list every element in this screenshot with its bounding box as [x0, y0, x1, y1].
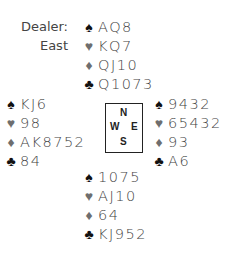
heart-icon: ♥ [82, 38, 96, 54]
south-hearts: AJ10 [98, 188, 137, 204]
north-hearts: KQ7 [98, 38, 133, 54]
north-spades: AQ8 [98, 19, 133, 35]
diamond-icon: ♦ [82, 57, 96, 73]
south-spades: 1075 [98, 169, 141, 185]
diamond-icon: ♦ [152, 134, 166, 150]
west-diamonds: AK8752 [20, 134, 85, 150]
spade-icon: ♠ [4, 96, 18, 112]
west-hearts: 98 [20, 115, 41, 131]
north-diamonds-row: ♦ QJ10 [82, 55, 154, 74]
south-spades-row: ♠ 1075 [82, 167, 147, 186]
north-clubs: Q1073 [98, 76, 154, 92]
east-hearts: 65432 [168, 115, 222, 131]
west-hearts-row: ♥ 98 [4, 113, 85, 132]
spade-icon: ♠ [82, 169, 96, 185]
heart-icon: ♥ [152, 115, 166, 131]
east-clubs: A6 [168, 153, 190, 169]
compass-south: S [120, 136, 127, 147]
south-clubs: KJ952 [98, 226, 147, 242]
south-hand: ♠ 1075 ♥ AJ10 ♦ 64 ♣ KJ952 [82, 167, 147, 243]
club-icon: ♣ [82, 226, 96, 242]
west-spades: KJ6 [20, 96, 48, 112]
diamond-icon: ♦ [82, 207, 96, 223]
south-hearts-row: ♥ AJ10 [82, 186, 147, 205]
north-spades-row: ♠ AQ8 [82, 17, 154, 36]
compass-west: W [110, 121, 119, 132]
north-hearts-row: ♥ KQ7 [82, 36, 154, 55]
heart-icon: ♥ [4, 115, 18, 131]
south-diamonds-row: ♦ 64 [82, 205, 147, 224]
west-spades-row: ♠ KJ6 [4, 94, 85, 113]
south-diamonds: 64 [98, 207, 119, 223]
spade-icon: ♠ [82, 19, 96, 35]
west-hand: ♠ KJ6 ♥ 98 ♦ AK8752 ♣ 84 [4, 94, 85, 170]
club-icon: ♣ [152, 153, 166, 169]
north-diamonds: QJ10 [98, 57, 138, 73]
dealer-value: East [4, 36, 68, 55]
spade-icon: ♠ [152, 96, 166, 112]
east-hand: ♠ 9432 ♥ 65432 ♦ 93 ♣ A6 [152, 94, 222, 170]
east-clubs-row: ♣ A6 [152, 151, 222, 170]
compass-east: E [131, 121, 138, 132]
west-diamonds-row: ♦ AK8752 [4, 132, 85, 151]
east-diamonds-row: ♦ 93 [152, 132, 222, 151]
east-spades-row: ♠ 9432 [152, 94, 222, 113]
compass-box: N W E S [105, 103, 143, 153]
club-icon: ♣ [4, 153, 18, 169]
west-clubs-row: ♣ 84 [4, 151, 85, 170]
heart-icon: ♥ [82, 188, 96, 204]
north-hand: ♠ AQ8 ♥ KQ7 ♦ QJ10 ♣ Q1073 [82, 17, 154, 93]
club-icon: ♣ [82, 76, 96, 92]
diamond-icon: ♦ [4, 134, 18, 150]
dealer-label: Dealer: [4, 17, 68, 36]
east-spades: 9432 [168, 96, 211, 112]
east-diamonds: 93 [168, 134, 189, 150]
compass-north: N [120, 107, 127, 118]
north-clubs-row: ♣ Q1073 [82, 74, 154, 93]
west-clubs: 84 [20, 153, 41, 169]
south-clubs-row: ♣ KJ952 [82, 224, 147, 243]
east-hearts-row: ♥ 65432 [152, 113, 222, 132]
